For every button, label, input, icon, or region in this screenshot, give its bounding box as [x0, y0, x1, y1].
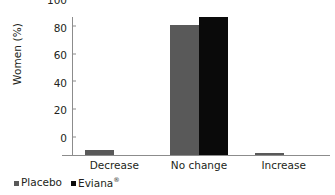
y-tick-0: 0: [60, 127, 72, 146]
registered-trademark-icon: ®: [113, 176, 120, 184]
y-tick-20: 20: [54, 99, 72, 118]
x-label-no-change: No change: [171, 159, 227, 171]
y-tick-mark: [72, 26, 76, 27]
x-label-decrease: Decrease: [90, 159, 139, 171]
y-tick-label: 0: [60, 132, 72, 144]
y-tick-label: 60: [54, 49, 72, 61]
y-tick-label: 80: [54, 21, 72, 33]
x-axis-line: [62, 155, 330, 156]
y-tick-mark: [72, 81, 76, 82]
y-tick-80: 80: [54, 16, 72, 35]
legend-label-eviana: Eviana®: [78, 176, 120, 189]
y-tick-label: 100: [47, 0, 72, 6]
plot-area: 020406080100: [72, 17, 326, 155]
legend-swatch-eviana: [71, 181, 76, 186]
bar-no-change-eviana: [199, 17, 228, 155]
y-tick-label: 20: [54, 104, 72, 116]
y-tick-label: 40: [54, 76, 72, 88]
bar-decrease-placebo: [85, 150, 114, 155]
y-tick-60: 60: [54, 44, 72, 63]
bar-chart-figure: Women (%) 020406080100 DecreaseNo change…: [0, 0, 335, 195]
y-tick-100: 100: [47, 0, 72, 8]
bar-increase-placebo: [255, 153, 284, 155]
chart-legend: PlaceboEviana®: [14, 176, 120, 189]
legend-label-placebo: Placebo: [21, 176, 62, 188]
y-tick-mark: [72, 108, 76, 109]
y-tick-mark: [72, 53, 76, 54]
legend-item-placebo[interactable]: Placebo: [14, 176, 62, 188]
y-tick-40: 40: [54, 71, 72, 90]
y-tick-mark: [72, 136, 76, 137]
legend-swatch-placebo: [14, 181, 19, 186]
x-label-increase: Increase: [261, 159, 305, 171]
bar-no-change-placebo: [170, 25, 199, 155]
legend-item-eviana[interactable]: Eviana®: [71, 176, 120, 189]
y-axis-title: Women (%): [11, 0, 23, 109]
